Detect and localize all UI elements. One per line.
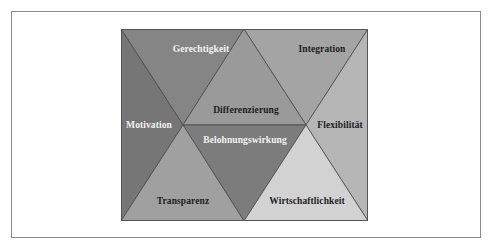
- label-integration: Integration: [298, 44, 345, 54]
- label-wirtschaftlichkeit: Wirtschaftlichkeit: [269, 196, 345, 206]
- label-belohnungswirkung: Belohnungswirkung: [203, 135, 287, 145]
- label-flexibilitaet: Flexibilität: [317, 120, 363, 130]
- label-motivation: Motivation: [126, 120, 172, 130]
- triangle-diagram: Gerechtigkeit Integration Differenzierun…: [121, 29, 368, 221]
- label-differenzierung: Differenzierung: [213, 105, 279, 115]
- label-gerechtigkeit: Gerechtigkeit: [173, 44, 230, 54]
- label-transparenz: Transparenz: [157, 196, 209, 206]
